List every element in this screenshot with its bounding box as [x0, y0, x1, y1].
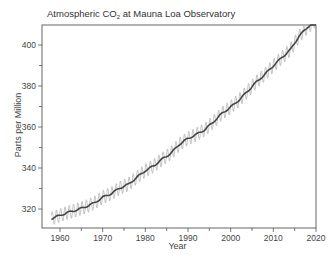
y-tick-label: 360 — [22, 122, 36, 132]
x-axis-label: Year — [0, 241, 335, 251]
plot-frame — [42, 25, 316, 228]
trend-co2-line — [51, 25, 316, 219]
y-tick-label: 340 — [22, 163, 36, 173]
y-axis-label: Parts per Million — [13, 85, 23, 165]
y-tick-label: 400 — [22, 40, 36, 50]
monthly-co2-line — [51, 25, 316, 224]
y-tick-label: 380 — [22, 81, 36, 91]
chart-plot: 3203403603804001960197019801990200020102… — [0, 0, 335, 263]
y-tick-label: 320 — [22, 204, 36, 214]
